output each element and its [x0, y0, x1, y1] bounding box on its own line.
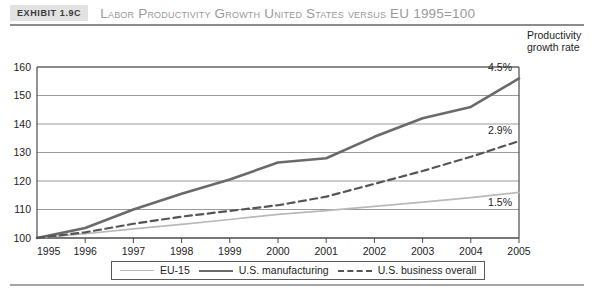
x-axis-tick-label: 1998: [170, 245, 194, 257]
line-chart: 1001101201301401501601995199619971998199…: [0, 26, 594, 258]
y-axis-tick-label: 100: [13, 232, 31, 244]
growth-rate-us-manufacturing: 4.5%: [488, 61, 512, 73]
series-line-eu-15: [37, 192, 519, 238]
y-axis-tick-label: 160: [13, 61, 31, 73]
x-axis-tick-label: 2003: [411, 245, 435, 257]
series-line-u-s-business-overall: [37, 141, 519, 238]
x-axis-tick-label: 2004: [459, 245, 483, 257]
x-axis-tick-label: 2002: [363, 245, 387, 257]
x-axis-tick-label: 1999: [218, 245, 242, 257]
growth-rate-us-business-overall: 2.9%: [488, 124, 512, 136]
x-axis-tick-label: 1997: [122, 245, 146, 257]
y-axis-tick-label: 130: [13, 146, 31, 158]
legend-label-us-manufacturing: U.S. manufacturing: [239, 265, 329, 276]
x-axis-tick-label: 1995: [37, 245, 61, 257]
x-axis-tick-label: 2001: [315, 245, 339, 257]
y-axis-tick-label: 120: [13, 175, 31, 187]
exhibit-title: Labor Productivity Growth United States …: [100, 6, 475, 21]
legend-item-us-business-overall: U.S. business overall: [338, 265, 477, 276]
annotation-header-line-2: growth rate: [527, 41, 580, 53]
exhibit-header: Exhibit 1.9C Labor Productivity Growth U…: [0, 0, 594, 26]
exhibit-figure: Exhibit 1.9C Labor Productivity Growth U…: [0, 0, 594, 291]
y-axis-tick-label: 140: [13, 118, 31, 130]
annotation-header-line-1: Productivity: [527, 29, 582, 41]
legend-label-eu-15: EU-15: [160, 265, 190, 276]
growth-rate-eu-15: 1.5%: [488, 196, 512, 208]
x-axis-tick-label: 1996: [74, 245, 98, 257]
exhibit-tag: Exhibit 1.9C: [10, 5, 88, 21]
legend-swatch-us-manufacturing-icon: [199, 266, 233, 274]
x-axis-tick-label: 2000: [266, 245, 290, 257]
legend-item-us-manufacturing: U.S. manufacturing: [199, 265, 329, 276]
chart-legend: EU-15 U.S. manufacturing U.S. business o…: [111, 261, 485, 280]
legend-label-us-business-overall: U.S. business overall: [378, 265, 477, 276]
y-axis-tick-label: 110: [14, 203, 31, 215]
legend-item-eu-15: EU-15: [120, 265, 190, 276]
legend-swatch-eu-15-icon: [120, 266, 154, 274]
legend-swatch-us-business-overall-icon: [338, 266, 372, 274]
x-axis-tick-label: 2005: [507, 245, 531, 257]
footer-divider: [10, 284, 584, 286]
y-axis-tick-label: 150: [13, 89, 31, 101]
